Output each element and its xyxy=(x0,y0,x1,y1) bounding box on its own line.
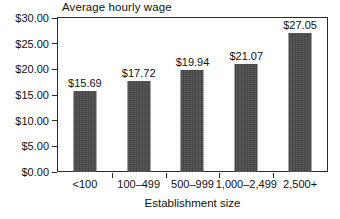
y-axis-tick-label: $15.00 xyxy=(15,89,52,101)
y-axis-tick-mark xyxy=(52,95,57,96)
y-axis-tick-label: $25.00 xyxy=(15,37,52,49)
x-axis-category-label: 100–499 xyxy=(117,178,160,190)
bar-group: $15.69 xyxy=(58,18,112,172)
chart-title: Average hourly wage xyxy=(62,1,172,13)
x-axis-category-label: 500–999 xyxy=(171,178,214,190)
y-axis-tick-label: $10.00 xyxy=(15,114,52,126)
bar xyxy=(127,81,150,172)
y-axis-tick-mark xyxy=(52,146,57,147)
bar-group: $27.05 xyxy=(273,18,327,172)
x-axis-category-label: 1,000–2,499 xyxy=(216,178,277,190)
y-axis-tick-label: $5.00 xyxy=(21,140,52,152)
y-axis-tick-label: $0.00 xyxy=(21,166,52,178)
bar xyxy=(289,33,312,172)
y-axis-tick-mark xyxy=(52,172,57,173)
bar-group: $19.94 xyxy=(166,18,220,172)
y-axis-tick-mark xyxy=(52,120,57,121)
bar-group: $21.07 xyxy=(219,18,273,172)
y-axis-tick-label: $30.00 xyxy=(15,12,52,24)
bar-chart-figure: Average hourly wage $0.00$5.00$10.00$15.… xyxy=(0,0,340,219)
y-axis-tick-mark xyxy=(52,43,57,44)
bar-value-label: $27.05 xyxy=(283,19,317,31)
x-axis-category-label: <100 xyxy=(73,178,98,190)
y-axis-tick-mark xyxy=(52,18,57,19)
bar-value-label: $17.72 xyxy=(122,67,156,79)
bar-value-label: $15.69 xyxy=(68,77,102,89)
bar-value-label: $21.07 xyxy=(229,50,263,62)
bar xyxy=(181,70,204,172)
x-axis-labels: <100100–499500–9991,000–2,4992,500+ xyxy=(57,178,328,194)
bar-value-label: $19.94 xyxy=(176,56,210,68)
x-axis-title: Establishment size xyxy=(57,197,328,209)
bar xyxy=(73,91,96,172)
y-axis-tick-mark xyxy=(52,69,57,70)
bar xyxy=(235,64,258,172)
bars-layer: $15.69$17.72$19.94$21.07$27.05 xyxy=(58,18,327,172)
bar-group: $17.72 xyxy=(112,18,166,172)
y-axis-tick-label: $20.00 xyxy=(15,63,52,75)
y-axis: $0.00$5.00$10.00$15.00$20.00$25.00$30.00 xyxy=(0,17,57,173)
x-axis-category-label: 2,500+ xyxy=(283,178,317,190)
